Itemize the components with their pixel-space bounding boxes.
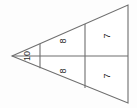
- region-label-upper-middle: 8: [58, 38, 68, 43]
- triangle-diagram: 10 8 8 7 7: [0, 0, 137, 108]
- region-label-apex: 10: [22, 51, 32, 61]
- region-label-lower-right: 7: [102, 73, 112, 78]
- region-label-lower-middle: 8: [58, 68, 68, 73]
- diagram-canvas: 10 8 8 7 7: [0, 0, 137, 108]
- region-label-upper-right: 7: [102, 33, 112, 38]
